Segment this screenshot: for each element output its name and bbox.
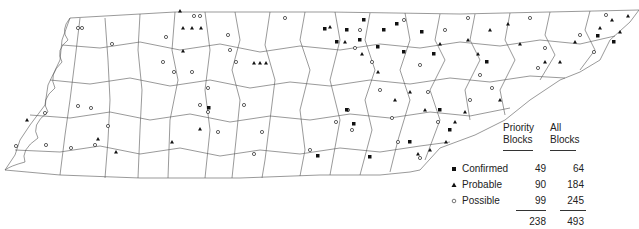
divider <box>516 210 546 211</box>
legend-row-confirmed: Confirmed 49 64 <box>448 162 638 176</box>
legend-row-probable: Probable 90 184 <box>448 178 638 192</box>
filled-square-icon <box>450 165 458 173</box>
county-boundaries <box>5 10 639 178</box>
divider <box>560 210 586 211</box>
observation-symbols <box>14 9 630 160</box>
header-priority-blocks: Priority Blocks <box>503 122 534 146</box>
divider <box>550 150 576 151</box>
open-circle-icon <box>450 197 458 205</box>
legend-row-possible: Possible 99 245 <box>448 194 638 208</box>
filled-triangle-icon <box>450 181 458 189</box>
probable-markers <box>25 9 630 156</box>
header-all-blocks: All Blocks <box>550 122 579 146</box>
divider <box>503 150 533 151</box>
legend-row-totals: 238 493 <box>448 215 638 229</box>
